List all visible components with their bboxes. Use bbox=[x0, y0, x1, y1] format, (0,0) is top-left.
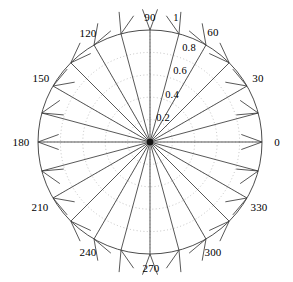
arrow-head-225-1 bbox=[71, 221, 80, 241]
angle-label-300: 300 bbox=[204, 247, 221, 258]
polar-plot-canvas bbox=[0, 0, 293, 282]
arrow-shaft-120 bbox=[94, 45, 150, 142]
arrow-head-255-1 bbox=[119, 250, 121, 272]
angle-label-0: 0 bbox=[274, 137, 280, 148]
radial-label-1: 1 bbox=[173, 13, 178, 24]
arrow-shaft-300 bbox=[150, 142, 206, 239]
radial-label-0-6: 0.6 bbox=[173, 66, 187, 77]
arrow-head-105-0 bbox=[119, 12, 121, 34]
compass-arrow-135 bbox=[71, 43, 150, 142]
arrow-shaft-330 bbox=[150, 142, 247, 198]
arrow-shaft-105 bbox=[121, 34, 150, 142]
arrow-shaft-165 bbox=[42, 113, 150, 142]
compass-arrow-165 bbox=[42, 100, 150, 142]
angle-label-330: 330 bbox=[250, 202, 267, 213]
angle-label-270: 270 bbox=[142, 263, 159, 274]
arrow-head-135-0 bbox=[71, 43, 80, 63]
arrow-shaft-345 bbox=[150, 142, 258, 171]
compass-arrow-330 bbox=[150, 142, 247, 215]
arrow-head-0-1 bbox=[241, 134, 262, 142]
arrow-head-15-1 bbox=[240, 100, 258, 113]
arrow-head-45-0 bbox=[209, 54, 229, 63]
arrow-head-0-0 bbox=[241, 142, 262, 150]
arrow-head-180-1 bbox=[38, 142, 59, 150]
arrow-shaft-135 bbox=[71, 63, 150, 142]
arrow-head-195-1 bbox=[42, 171, 60, 184]
arrow-shaft-150 bbox=[53, 86, 150, 142]
arrow-shaft-255 bbox=[121, 142, 150, 250]
compass-arrow-210 bbox=[53, 142, 150, 215]
arrow-shaft-195 bbox=[42, 142, 150, 171]
polar-center-marker bbox=[147, 139, 153, 145]
angle-label-180: 180 bbox=[12, 137, 29, 148]
arrow-head-225-0 bbox=[71, 221, 91, 230]
angle-label-150: 150 bbox=[32, 73, 49, 84]
angle-label-90: 90 bbox=[144, 12, 155, 23]
angle-label-30: 30 bbox=[252, 73, 263, 84]
polar-plot-figure: 0306090120150180210240270300330 10.80.60… bbox=[0, 0, 293, 282]
compass-arrow-345 bbox=[150, 142, 258, 184]
arrow-shaft-240 bbox=[94, 142, 150, 239]
compass-arrow-0 bbox=[150, 134, 262, 149]
arrow-head-345-0 bbox=[240, 171, 258, 184]
arrow-head-135-1 bbox=[71, 54, 91, 63]
angle-label-60: 60 bbox=[207, 27, 218, 38]
radial-label-0-8: 0.8 bbox=[182, 43, 196, 54]
center-dot bbox=[147, 139, 153, 145]
arrow-head-315-0 bbox=[220, 221, 229, 241]
arrow-head-75-1 bbox=[179, 12, 181, 34]
arrow-head-285-0 bbox=[179, 250, 181, 272]
arrow-head-315-1 bbox=[209, 221, 229, 230]
arrow-shaft-285 bbox=[150, 142, 179, 250]
radial-label-0-4: 0.4 bbox=[165, 90, 179, 101]
compass-arrow-315 bbox=[150, 142, 229, 241]
arrow-shaft-45 bbox=[150, 63, 229, 142]
arrow-head-180-0 bbox=[38, 134, 59, 142]
compass-arrow-45 bbox=[150, 43, 229, 142]
angle-label-240: 240 bbox=[79, 247, 96, 258]
arrow-shaft-210 bbox=[53, 142, 150, 198]
arrow-shaft-315 bbox=[150, 142, 229, 221]
radial-label-0-2: 0.2 bbox=[156, 113, 170, 124]
arrow-head-45-1 bbox=[220, 43, 229, 63]
compass-arrow-195 bbox=[42, 142, 150, 184]
angle-label-120: 120 bbox=[79, 28, 96, 39]
compass-arrow-30 bbox=[150, 69, 247, 142]
angle-label-210: 210 bbox=[31, 202, 48, 213]
compass-arrow-150 bbox=[53, 69, 150, 142]
compass-arrow-225 bbox=[71, 142, 150, 241]
arrow-shaft-225 bbox=[71, 142, 150, 221]
compass-arrow-180 bbox=[38, 134, 150, 149]
arrow-head-165-0 bbox=[42, 100, 60, 113]
